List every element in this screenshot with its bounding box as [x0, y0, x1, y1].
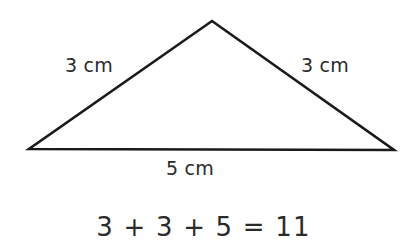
side-label-right: 3 cm	[301, 56, 349, 75]
triangle-outline	[29, 21, 394, 150]
side-label-left: 3 cm	[65, 56, 113, 75]
perimeter-equation: 3 + 3 + 5 = 11	[0, 214, 407, 240]
diagram-canvas: 3 cm 3 cm 5 cm 3 + 3 + 5 = 11	[0, 0, 407, 251]
side-label-base: 5 cm	[166, 159, 214, 178]
